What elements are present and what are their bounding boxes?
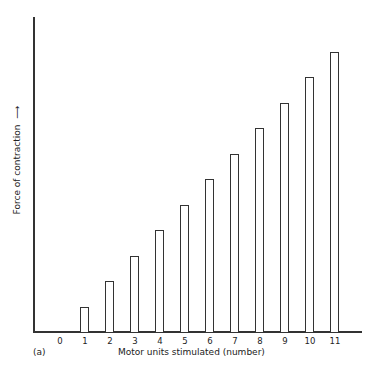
x-axis-label: Motor units stimulated (number) (118, 347, 265, 357)
x-tick-label: 10 (300, 336, 320, 346)
bar (330, 52, 339, 333)
bar (230, 154, 239, 333)
arrow-up-icon: ⟶ (12, 106, 22, 119)
x-tick-label: 5 (175, 336, 195, 346)
x-tick-label: 9 (275, 336, 295, 346)
bar-chart: Force of contraction⟶ 01234567891011 (a)… (0, 0, 380, 381)
x-tick-label: 8 (250, 336, 270, 346)
x-tick-label: 4 (150, 336, 170, 346)
bar (305, 77, 314, 332)
bar (180, 205, 189, 333)
panel-label: (a) (33, 347, 46, 357)
x-tick-label: 0 (50, 336, 70, 346)
bar (255, 128, 264, 332)
bar (80, 307, 89, 333)
x-tick-label: 6 (200, 336, 220, 346)
bar (205, 179, 214, 332)
bar (280, 103, 289, 333)
y-axis (33, 17, 35, 332)
x-tick-label: 3 (125, 336, 145, 346)
y-axis-label-text: Force of contraction (12, 125, 22, 215)
bar (105, 281, 114, 332)
x-tick-label: 11 (325, 336, 345, 346)
x-tick-label: 2 (100, 336, 120, 346)
y-axis-label: Force of contraction⟶ (12, 106, 22, 215)
bar (130, 256, 139, 333)
x-tick-label: 7 (225, 336, 245, 346)
bar (155, 230, 164, 332)
x-tick-label: 1 (75, 336, 95, 346)
